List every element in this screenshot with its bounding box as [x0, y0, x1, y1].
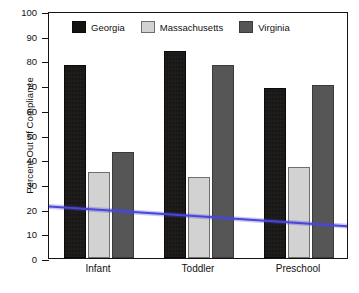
- y-axis-tick: [42, 186, 49, 187]
- bar-virginia-toddler: [212, 65, 234, 258]
- plot-area: [48, 12, 348, 259]
- y-axis-tick-label: 0: [32, 254, 37, 265]
- y-axis-tick: [42, 112, 49, 113]
- legend-item-georgia[interactable]: Georgia: [72, 21, 125, 33]
- legend-label: Virginia: [258, 22, 290, 33]
- x-axis-label-preschool: Preschool: [276, 263, 320, 274]
- bar-georgia-toddler: [164, 51, 186, 258]
- x-axis-label-infant: Infant: [85, 263, 110, 274]
- chart-container: Percent Out of Compliance 01020304050607…: [0, 0, 359, 293]
- plot-inner: [49, 13, 347, 258]
- y-axis-tick-label: 70: [26, 81, 37, 92]
- y-axis-tick: [42, 211, 49, 212]
- legend-label: Georgia: [91, 22, 125, 33]
- y-axis-tick: [42, 260, 49, 261]
- y-axis-tick: [42, 137, 49, 138]
- y-axis-tick: [42, 161, 49, 162]
- legend-item-virginia[interactable]: Virginia: [239, 21, 290, 33]
- y-axis-tick-label: 40: [26, 155, 37, 166]
- x-axis-label-toddler: Toddler: [182, 263, 215, 274]
- legend-swatch-georgia-icon: [72, 21, 86, 33]
- y-axis-tick-label: 100: [21, 7, 37, 18]
- bar-massachusetts-infant: [88, 172, 110, 258]
- bar-virginia-infant: [112, 152, 134, 258]
- y-axis-tick: [42, 13, 49, 14]
- y-axis-tick: [42, 235, 49, 236]
- bar-virginia-preschool: [312, 85, 334, 258]
- y-axis-tick-label: 30: [26, 179, 37, 190]
- y-axis-tick: [42, 38, 49, 39]
- y-axis-tick-label: 90: [26, 31, 37, 42]
- chart-legend: GeorgiaMassachusettsVirginia: [72, 21, 306, 33]
- y-axis-tick-label: 80: [26, 56, 37, 67]
- bar-georgia-preschool: [264, 88, 286, 258]
- legend-item-massachusetts[interactable]: Massachusetts: [141, 21, 223, 33]
- y-axis-tick-label: 60: [26, 105, 37, 116]
- y-axis-tick-label: 50: [26, 130, 37, 141]
- bar-massachusetts-toddler: [188, 177, 210, 259]
- bar-massachusetts-preschool: [288, 167, 310, 258]
- y-axis-tick: [42, 87, 49, 88]
- y-axis-tick-label: 10: [26, 229, 37, 240]
- bar-georgia-infant: [64, 65, 86, 258]
- y-axis-tick: [42, 62, 49, 63]
- y-axis-tick-label: 20: [26, 204, 37, 215]
- legend-label: Massachusetts: [160, 22, 223, 33]
- legend-swatch-massachusetts-icon: [141, 21, 155, 33]
- legend-swatch-virginia-icon: [239, 21, 253, 33]
